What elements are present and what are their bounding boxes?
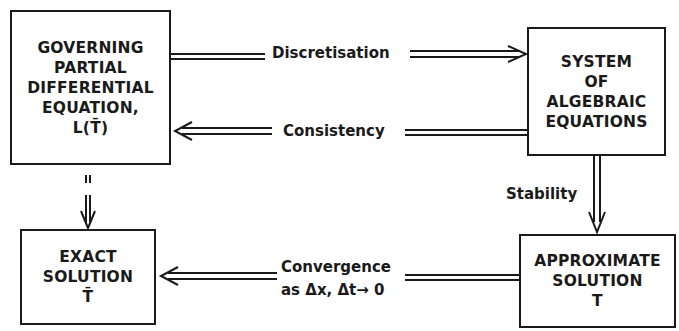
approximate-line-1: APPROXIMATE bbox=[534, 251, 661, 271]
stability-label: Stability bbox=[506, 185, 577, 203]
system-line-3: ALGEBRAIC bbox=[547, 92, 647, 112]
exact-solution-box: EXACT SOLUTION T̄ bbox=[20, 229, 156, 325]
governing-line-3: DIFFERENTIAL bbox=[27, 78, 154, 98]
governing-equation-box: GOVERNING PARTIAL DIFFERENTIAL EQUATION,… bbox=[10, 10, 171, 165]
approximate-solution-box: APPROXIMATE SOLUTION T bbox=[519, 234, 676, 328]
convergence-label-line-2: as Δx, Δt→ 0 bbox=[281, 281, 384, 299]
discretisation-label: Discretisation bbox=[272, 44, 390, 62]
exact-line-1: EXACT bbox=[59, 247, 116, 267]
governing-line-4: EQUATION, bbox=[42, 98, 139, 118]
convergence-label-line-1: Convergence bbox=[281, 258, 391, 276]
approximate-line-3: T bbox=[592, 291, 603, 311]
governing-line-5: L(T̄) bbox=[73, 118, 108, 138]
exact-line-2: SOLUTION bbox=[43, 267, 133, 287]
consistency-label: Consistency bbox=[283, 122, 385, 140]
exact-line-3: T̄ bbox=[83, 287, 94, 307]
approximate-line-2: SOLUTION bbox=[552, 271, 642, 291]
system-line-4: EQUATIONS bbox=[545, 112, 647, 132]
system-line-1: SYSTEM bbox=[561, 52, 632, 72]
system-line-2: OF bbox=[584, 72, 608, 92]
governing-line-2: PARTIAL bbox=[54, 58, 127, 78]
governing-line-1: GOVERNING bbox=[37, 38, 143, 58]
algebraic-system-box: SYSTEM OF ALGEBRAIC EQUATIONS bbox=[527, 27, 666, 156]
